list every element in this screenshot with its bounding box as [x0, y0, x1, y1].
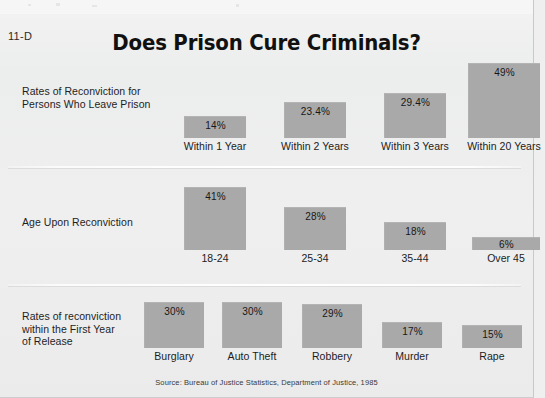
- source-note: Source: Bureau of Justice Statistics, De…: [0, 378, 533, 387]
- bar[interactable]: 49%: [468, 63, 540, 138]
- panel-label-line: Persons Who Leave Prison: [22, 98, 150, 111]
- panel-label: Rates of reconviction within the First Y…: [22, 310, 121, 348]
- bar-value-label: 30%: [223, 306, 282, 317]
- bar-category-label: Rape: [448, 350, 536, 362]
- bar-value-label: 29.4%: [385, 97, 446, 108]
- panel-label-line: within the First Year: [22, 323, 121, 336]
- bar-category-label: Over 45: [458, 252, 545, 264]
- bar-group[interactable]: 49% Within 20 Years: [468, 58, 540, 138]
- panel-label-line: of Release: [22, 335, 121, 348]
- bar[interactable]: 30%: [222, 302, 282, 348]
- bar-group[interactable]: 23.4% Within 2 Years: [284, 58, 346, 138]
- scan-speck: [236, 4, 239, 7]
- bar-group[interactable]: 41% 18-24: [184, 180, 246, 250]
- bar-value-label: 15%: [463, 329, 522, 340]
- bar[interactable]: 41%: [184, 187, 246, 250]
- panel-rates-first-year-of-release: Rates of reconviction within the First Y…: [0, 300, 533, 375]
- bar-category-label: 35-44: [370, 252, 460, 264]
- bar-category-label: Within 3 Years: [370, 140, 460, 152]
- bar-category-label: Auto Theft: [208, 350, 296, 362]
- panel-label-line: Age Upon Reconviction: [22, 216, 133, 229]
- bar-value-label: 29%: [303, 308, 362, 319]
- bar-group[interactable]: 14% Within 1 Year: [184, 58, 246, 138]
- bar[interactable]: 15%: [462, 325, 522, 348]
- bar-value-label: 23.4%: [285, 106, 346, 117]
- bar-value-label: 14%: [185, 120, 246, 131]
- bar-category-label: Within 20 Years: [454, 140, 545, 152]
- bar-group[interactable]: 29% Robbery: [302, 300, 362, 348]
- bar-series: 14% Within 1 Year 23.4% Within 2 Years 2…: [150, 58, 529, 138]
- section-divider: [8, 166, 521, 168]
- bar-category-label: Burglary: [130, 350, 218, 362]
- bar-group[interactable]: 28% 25-34: [284, 180, 346, 250]
- bar-value-label: 30%: [145, 306, 204, 317]
- bar[interactable]: 17%: [382, 322, 442, 348]
- bar[interactable]: 30%: [144, 302, 204, 348]
- bar[interactable]: 23.4%: [284, 102, 346, 138]
- bar[interactable]: 28%: [284, 207, 346, 250]
- panel-label-line: Rates of reconviction: [22, 310, 121, 323]
- bar-value-label: 6%: [473, 239, 540, 250]
- bar-value-label: 41%: [185, 191, 246, 202]
- bar[interactable]: 18%: [384, 222, 446, 250]
- bar[interactable]: 6%: [472, 237, 540, 250]
- section-divider: [8, 284, 521, 286]
- panel-label-line: Rates of Reconviction for: [22, 85, 150, 98]
- bar-group[interactable]: 30% Auto Theft: [222, 300, 282, 348]
- bar[interactable]: 14%: [184, 116, 246, 138]
- bar-value-label: 49%: [469, 67, 540, 78]
- bar-value-label: 17%: [383, 326, 442, 337]
- bar-category-label: Robbery: [288, 350, 376, 362]
- panel-rates-of-reconviction: Rates of Reconviction for Persons Who Le…: [0, 58, 533, 158]
- bar-series: 41% 18-24 28% 25-34 18% 35-44 6%: [150, 180, 529, 250]
- bar-series: 30% Burglary 30% Auto Theft 29% Robbery …: [142, 300, 529, 348]
- page-title: Does Prison Cure Criminals?: [16, 31, 517, 55]
- bar-group[interactable]: 29.4% Within 3 Years: [384, 58, 446, 138]
- bar-group[interactable]: 18% 35-44: [384, 180, 446, 250]
- bar-category-label: Within 2 Years: [270, 140, 360, 152]
- scan-speck: [28, 4, 31, 6]
- bar-value-label: 18%: [385, 226, 446, 237]
- bar[interactable]: 29%: [302, 304, 362, 348]
- page-top-band: [0, 0, 533, 14]
- bar-group[interactable]: 15% Rape: [462, 300, 522, 348]
- scan-speck: [92, 5, 97, 7]
- panel-label: Rates of Reconviction for Persons Who Le…: [22, 85, 150, 110]
- bar-group[interactable]: 30% Burglary: [144, 300, 204, 348]
- bar-group[interactable]: 6% Over 45: [472, 180, 540, 250]
- panel-age-upon-reconviction: Age Upon Reconviction 41% 18-24 28% 25-3…: [0, 180, 533, 275]
- bar-group[interactable]: 17% Murder: [382, 300, 442, 348]
- bar-value-label: 28%: [285, 211, 346, 222]
- panel-label: Age Upon Reconviction: [22, 216, 133, 229]
- bar-category-label: 18-24: [170, 252, 260, 264]
- scan-speck: [56, 3, 60, 6]
- bar[interactable]: 29.4%: [384, 93, 446, 138]
- bar-category-label: Within 1 Year: [170, 140, 260, 152]
- bar-category-label: 25-34: [270, 252, 360, 264]
- bar-category-label: Murder: [368, 350, 456, 362]
